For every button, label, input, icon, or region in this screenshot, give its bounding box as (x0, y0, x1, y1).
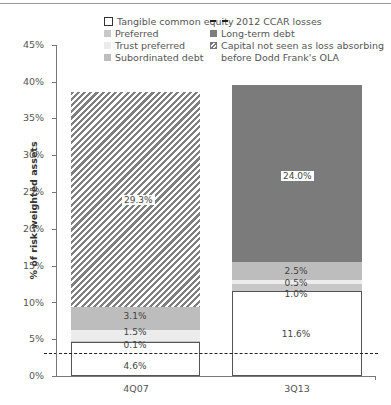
x-axis-end-tick (375, 376, 376, 380)
very-light-gray-swatch-icon (104, 42, 111, 49)
light-gray-swatch-icon (104, 30, 111, 37)
value-label: 4.6% (115, 361, 155, 371)
x-axis (56, 376, 376, 377)
dashed-line-swatch-icon (210, 20, 228, 22)
legend-item-continuation: before Dodd Frank's OLA (210, 52, 384, 64)
value-label: 0.5% (276, 278, 316, 288)
gray-swatch-icon (104, 54, 111, 61)
value-label: 3.1% (115, 311, 155, 321)
hatched-swatch-icon (210, 42, 217, 49)
legend-item-capital-not-loss-absorbing: Capital not seen as loss absorbing (210, 40, 384, 52)
value-label: 24.0% (281, 171, 314, 181)
legend-item-long-term-debt: Long-term debt (210, 28, 384, 40)
value-label: 29.3% (122, 195, 155, 205)
y-tick-label: 5% (0, 333, 44, 344)
top-rule (0, 3, 391, 4)
y-tick-label: 45% (0, 39, 44, 50)
dark-gray-swatch-icon (210, 30, 217, 37)
value-label: 2.5% (276, 266, 316, 276)
ccar-losses-reference-line (44, 353, 378, 354)
y-tick-label: 25% (0, 186, 44, 197)
y-axis (56, 45, 57, 377)
y-tick-label: 15% (0, 260, 44, 271)
white-box-swatch-icon (104, 17, 113, 26)
y-tick-label: 30% (0, 149, 44, 160)
legend-item-ccar-losses: 2012 CCAR losses (210, 16, 384, 28)
category-label-4q07: 4Q07 (106, 383, 166, 394)
y-tick-label: 20% (0, 223, 44, 234)
value-label: 11.6% (276, 329, 316, 339)
y-tick-label: 0% (0, 370, 44, 381)
value-label: 1.5% (115, 327, 155, 337)
value-label: 0.1% (115, 340, 155, 350)
y-tick-label: 10% (0, 297, 44, 308)
y-tick-label: 40% (0, 76, 44, 87)
legend-right: 2012 CCAR losses Long-term debt Capital … (210, 16, 384, 64)
y-tick-label: 35% (0, 112, 44, 123)
category-label-3q13: 3Q13 (267, 383, 327, 394)
value-label: 1.0% (276, 289, 316, 299)
